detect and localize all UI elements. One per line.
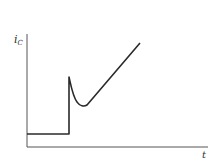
current-curve: [27, 43, 140, 134]
x-axis-label: t: [202, 149, 207, 160]
y-axis-label: iC: [14, 33, 24, 47]
y-axis-label-subscript: C: [18, 39, 24, 47]
collector-current-diagram: iC t: [0, 0, 222, 162]
